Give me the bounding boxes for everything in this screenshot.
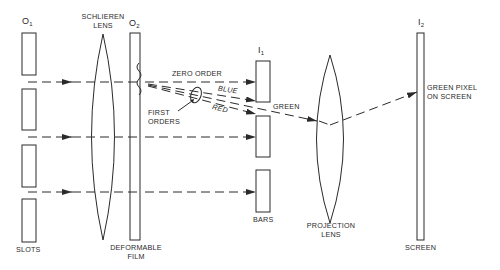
blue-beam — [148, 84, 256, 101]
zero-order-label: ZERO ORDER — [172, 70, 222, 79]
output-beams — [145, 82, 417, 192]
screen-symbol: I2 — [418, 18, 424, 30]
slots-symbol: O1 — [22, 17, 33, 29]
bar-1 — [256, 61, 270, 102]
first-orders-pointer — [178, 101, 192, 111]
bar-3 — [256, 170, 270, 212]
green-label: GREEN — [273, 103, 300, 112]
schlieren-optics-diagram: O1 SLOTS SCHLIEREN LENS O2 DEFORMABLE FI… — [0, 0, 500, 270]
diagram-drawing — [0, 0, 500, 270]
bar-2 — [256, 116, 270, 157]
bars-symbol: I1 — [258, 46, 264, 58]
bars-plate — [256, 61, 270, 212]
screen-shape — [417, 33, 424, 240]
slot-bar-2 — [22, 89, 36, 130]
schlieren-lens-label: SCHLIEREN LENS — [82, 13, 125, 30]
projection-lens-shape — [317, 55, 344, 223]
input-beams — [28, 82, 140, 192]
slot-bar-3 — [22, 145, 36, 187]
bars-label: BARS — [253, 216, 273, 225]
deformable-film-label: DEFORMABLE FILM — [110, 244, 162, 261]
green-beam-in-lens — [319, 121, 330, 125]
green-pixel-label: GREEN PIXEL ON SCREEN — [427, 84, 477, 101]
projection-lens-label: PROJECTION LENS — [307, 222, 355, 239]
slots-label: SLOTS — [16, 246, 41, 255]
slot-bar-1 — [22, 33, 36, 75]
film-symbol: O2 — [129, 19, 140, 31]
first-orders-label: FIRST ORDERS — [148, 109, 180, 126]
screen-label: SCREEN — [405, 244, 436, 253]
slot-bar-4 — [22, 199, 36, 242]
